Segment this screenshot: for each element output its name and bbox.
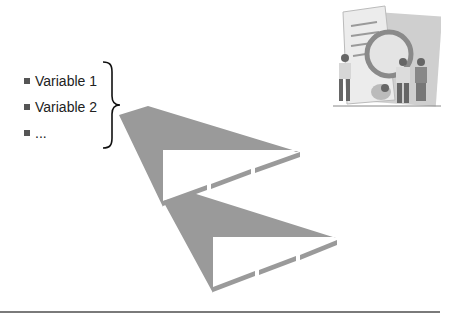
footer-divider-line: [0, 311, 440, 313]
funnel-arrow-2-icon: [163, 193, 337, 293]
people-magnifier-clipart-icon: [333, 4, 441, 108]
funnel-arrow-1-icon: [119, 106, 300, 207]
